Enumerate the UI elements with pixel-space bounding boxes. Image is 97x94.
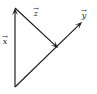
vector-x-arrow-accent-icon: → [2,35,8,39]
vector-diagram-figure: → x → z → y [0,0,97,94]
vector-y [15,22,82,87]
vector-y-label: → y [81,8,87,20]
vector-y-shaft [15,24,80,87]
vector-x-label: → x [2,34,8,46]
vector-y-arrow-accent-icon: → [81,9,87,13]
vector-z-label: → z [33,6,39,18]
vector-z-arrow-accent-icon: → [33,7,39,11]
vector-x [12,8,18,87]
